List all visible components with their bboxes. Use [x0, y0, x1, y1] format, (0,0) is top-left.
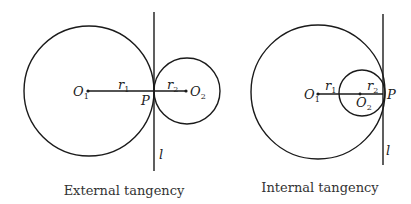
tangency-figure: O1 O2 r1 r2 P l External tangency O1 O2 … [0, 0, 411, 204]
label-p: P [140, 93, 150, 108]
circle-o1 [251, 25, 385, 159]
label-r2: r2 [367, 78, 378, 95]
label-l: l [386, 143, 390, 158]
caption-external: External tangency [64, 183, 185, 198]
center-point-o2 [184, 89, 187, 92]
label-o2: O2 [356, 95, 372, 112]
label-o2: O2 [190, 84, 206, 101]
label-r1: r1 [118, 77, 129, 94]
label-p: P [386, 87, 396, 102]
label-o1: O1 [73, 84, 89, 101]
label-o1: O1 [304, 87, 320, 104]
internal-tangency-diagram: O1 O2 r1 r2 P l Internal tangency [251, 14, 396, 195]
label-l: l [159, 147, 163, 162]
external-tangency-diagram: O1 O2 r1 r2 P l External tangency [24, 12, 220, 198]
label-r1: r1 [325, 78, 336, 95]
caption-internal: Internal tangency [261, 180, 379, 195]
label-r2: r2 [167, 77, 178, 94]
